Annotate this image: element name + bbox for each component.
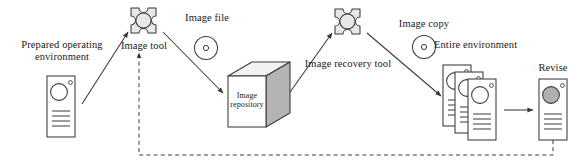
- label-entire-environment: Entire environment: [434, 39, 517, 51]
- label-prepared-operating-environment: Prepared operating environment: [6, 39, 118, 63]
- stacked-computer-front: [468, 79, 496, 140]
- node-image-tool: [131, 8, 156, 33]
- label-line-1: Image: [237, 91, 258, 100]
- node-revise: [539, 79, 567, 140]
- diagram-canvas: Prepared operating environment Image too…: [0, 0, 584, 168]
- label-revise: Revise: [524, 62, 582, 74]
- label-line-2: repository: [230, 100, 263, 109]
- node-image-copy: [413, 36, 436, 59]
- node-image-file: [195, 37, 218, 60]
- diagram-graphics: [0, 0, 584, 168]
- label-line-2: environment: [35, 51, 89, 62]
- node-entire-environment: [443, 65, 496, 140]
- label-image-tool: Image tool: [108, 40, 180, 52]
- label-image-repository: Image repository: [228, 91, 266, 109]
- label-line-1: Prepared operating: [21, 39, 102, 50]
- label-image-file: Image file: [172, 12, 242, 24]
- label-image-recovery-tool: Image recovery tool: [288, 58, 408, 70]
- node-prepared-operating-environment: [47, 76, 75, 137]
- label-image-copy: Image copy: [392, 18, 456, 30]
- node-image-recovery-tool: [335, 9, 360, 34]
